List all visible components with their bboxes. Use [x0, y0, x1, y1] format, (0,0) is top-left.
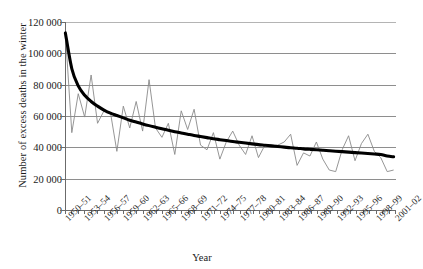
y-axis-tick-label: 100 000 — [28, 48, 62, 59]
y-axis-tick-label: 120 000 — [28, 17, 62, 28]
y-axis-tick-label: 40 000 — [33, 142, 62, 153]
y-axis-ticks: 020 00040 00060 00080 000100 000120 000 — [0, 0, 62, 269]
y-axis-tick-label: 80 000 — [33, 79, 62, 90]
plot-area — [65, 22, 395, 210]
y-axis-tick-label: 20 000 — [33, 173, 62, 184]
y-axis-tick-label: 60 000 — [33, 111, 62, 122]
